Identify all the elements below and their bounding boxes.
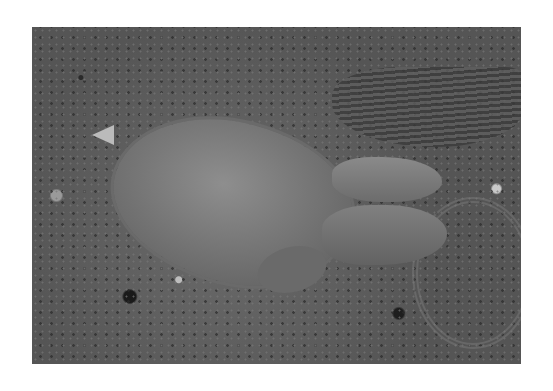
turtle-tail [92,125,114,145]
turtle-neck [332,157,442,202]
turtle-photo [32,27,521,364]
